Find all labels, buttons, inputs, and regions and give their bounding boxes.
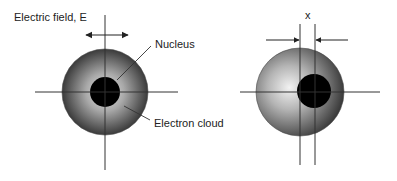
nucleus-right xyxy=(297,74,331,108)
electric-field-label: Electric field, E xyxy=(14,11,87,23)
electron-cloud-label: Electron cloud xyxy=(154,117,224,129)
nucleus-label: Nucleus xyxy=(155,38,195,50)
polarization-diagram xyxy=(0,0,397,181)
polarized-atom xyxy=(240,24,380,165)
displacement-label: x xyxy=(305,9,311,21)
